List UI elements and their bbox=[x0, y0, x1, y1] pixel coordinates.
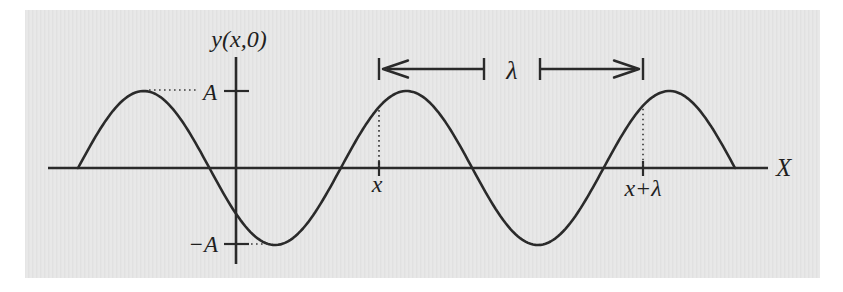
figure: | --> y(x,0) A −A x x+λ X λ bbox=[0, 0, 843, 292]
wavelength-label: λ bbox=[505, 56, 517, 85]
amplitude-positive-label: A bbox=[201, 80, 218, 105]
panel-background bbox=[25, 10, 820, 278]
x-axis-label: X bbox=[775, 154, 793, 181]
amplitude-negative-label: −A bbox=[188, 232, 219, 257]
y-axis-label: y(x,0) bbox=[209, 26, 266, 52]
figure-canvas: | --> y(x,0) A −A x x+λ X λ bbox=[0, 0, 843, 292]
x-position-label: x bbox=[371, 171, 383, 197]
x-plus-lambda-label: x+λ bbox=[623, 175, 661, 201]
